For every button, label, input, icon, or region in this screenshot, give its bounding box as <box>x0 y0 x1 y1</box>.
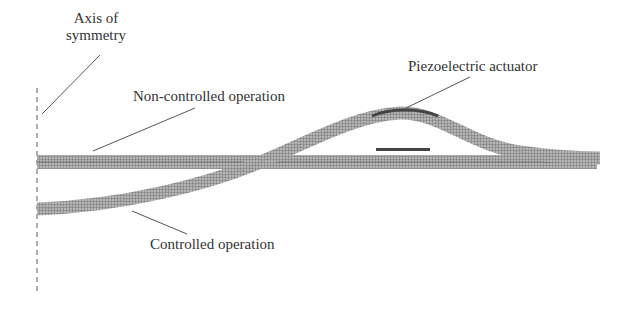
controlled-leader-line <box>132 211 187 234</box>
diagram-canvas <box>0 0 624 309</box>
axis-label-line-2: symmetry <box>66 27 126 44</box>
actuator-leader-line <box>406 77 470 108</box>
controlled-label: Controlled operation <box>150 236 275 253</box>
axis-of-symmetry-label: Axis of symmetry <box>66 10 126 44</box>
actuator-on-straight-beam <box>376 148 430 151</box>
axis-label-line-1: Axis of <box>66 10 126 27</box>
non-controlled-leader-line <box>93 108 195 151</box>
actuator-label: Piezoelectric actuator <box>408 58 538 75</box>
axis-leader-line <box>42 55 100 114</box>
non-controlled-label: Non-controlled operation <box>133 88 285 105</box>
